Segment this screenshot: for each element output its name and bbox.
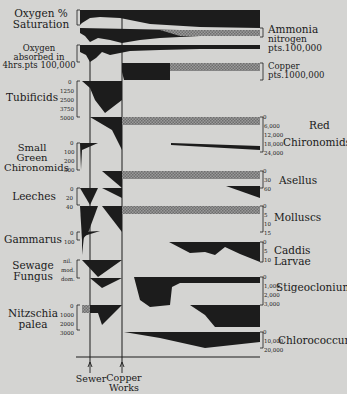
marker-sewer: Sewer [74,373,108,384]
stigeoclonium-shape-2 [190,305,260,327]
tick: 0 [70,140,74,146]
molluscs-left-2 [102,206,122,232]
label-oxygen-absorbed: Oxygen absorbed in 4hrs.pts 100,000 [0,44,78,70]
label-sewage-fungus: Sewage Fungus [10,260,56,282]
tick: 6,000 [264,123,280,129]
stigeoclonium-shape [134,277,260,307]
tick: 0 [70,186,74,192]
red-chironomids-hatch [122,117,260,125]
tick: 3750 [60,106,74,112]
tick: 10 [264,221,271,227]
red-chironomids-shape [171,143,260,150]
asellus-hatch [122,171,260,179]
tick: 100 [64,149,75,155]
label-molluscs: Molluscs [274,212,340,223]
river-pollution-diagram: Oxygen % Saturation Oxygen absorbed in 4… [0,0,347,394]
tubificids-shape [82,81,122,113]
tick: 18,000 [264,141,283,147]
tick: 24,000 [264,150,283,156]
tick: 100 [64,239,75,245]
asellus-left [102,171,122,188]
label-line: pts.1000,000 [268,71,346,80]
sewage-fungus-shape [82,260,122,277]
tick: 0 [263,203,267,209]
tick: 0 [70,303,74,309]
oxygen-saturation-band [80,10,260,28]
label-small-green-chironomids: Small Green Chironomids [4,143,60,173]
nitzschia-shape [90,305,122,325]
tick: 5 [264,212,268,218]
copper-hatch [170,63,260,71]
tick: nil. [63,258,72,264]
tick: 3000 [60,330,74,336]
label-copper: Copper pts.1000,000 [268,62,346,80]
sewage-fungus-shape-2 [90,278,122,288]
label-leeches: Leeches [10,191,58,202]
label-line: Works [104,383,144,393]
label-line: Chironomids [4,163,60,173]
caddis-shape [169,242,260,262]
tick: 0 [263,168,267,174]
tick: 10 [264,257,271,263]
tick: 300 [64,167,75,173]
label-asellus: Asellus [279,175,339,186]
tick: 5 [264,248,268,254]
tick: 10,000 [264,338,283,344]
tick: 12,000 [264,132,283,138]
tick: 0 [263,274,267,280]
tick: dom. [61,276,75,282]
label-line: palea [6,319,60,330]
label-ammonia-nitrogen: Ammonia nitrogen pts.100,000 [268,24,340,53]
label-stigeoclonium: Stigeoclonium [276,282,346,293]
label-caddis-larvae: Caddis Larvae [274,245,346,267]
tick: 1250 [60,88,74,94]
tick: 20,000 [264,347,283,353]
label-chlorococcum: Chlorococcum [278,335,346,346]
label-line: Saturation [6,19,76,30]
label-red-chironomids: Red Chironomids [297,120,345,148]
label-line: Red [297,120,345,131]
gammarus-shape [82,231,100,255]
label-line: pts.100,000 [268,44,340,53]
tick: 0 [70,230,74,236]
copper-band [122,63,170,80]
label-gammarus: Gammarus [4,234,62,245]
tick: 0 [263,114,267,120]
tick: 15 [264,230,271,236]
label-oxygen-saturation: Oxygen % Saturation [6,8,76,30]
molluscs-hatch [122,206,260,214]
tick: mod. [61,267,75,273]
tick: 2,000 [264,292,280,298]
leeches-shape [80,188,98,205]
tick: 0 [263,239,267,245]
asellus-right [226,186,260,198]
label-line: Chironomids [283,137,345,148]
tick: 2000 [60,321,74,327]
tick: 200 [64,158,75,164]
tick: 60 [264,186,271,192]
tick: 0 [68,79,72,85]
chlorococcum-shape [124,332,260,348]
tick: 1,000 [264,283,280,289]
tick: 1000 [60,312,74,318]
tick: 5000 [60,115,74,121]
label-line: 4hrs.pts 100,000 [0,61,78,70]
oxygen-absorbed-band [80,45,260,62]
tick: 3,000 [264,301,280,307]
right-scale-brackets [260,28,263,348]
label-tubificids: Tubificids [4,92,60,103]
label-line: Fungus [10,271,56,282]
label-nitzschia-palea: Nitzschia palea [6,308,60,330]
tick: 40 [66,204,73,210]
tick: 30 [264,177,271,183]
tick: 2500 [60,97,74,103]
leeches-shape-2 [102,188,122,198]
tick: 0 [263,329,267,335]
tubificids-shape-2 [90,117,122,150]
small-green-chironomids-shape [80,143,98,170]
tick: 20 [66,195,73,201]
marker-copper-works: Copper Works [104,373,144,392]
